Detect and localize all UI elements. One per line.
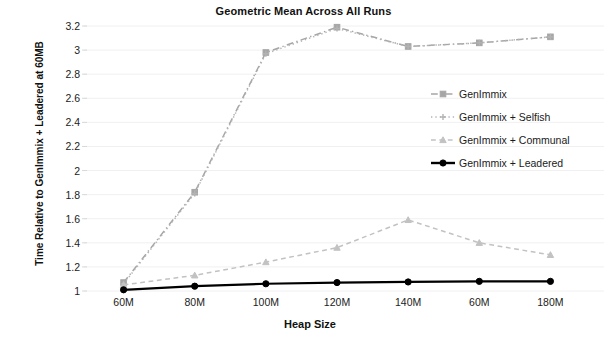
x-tick-label: 100M bbox=[236, 296, 296, 308]
legend-marker-icon bbox=[430, 156, 456, 170]
data-point-marker bbox=[440, 159, 446, 165]
x-tick-label: 180M bbox=[520, 296, 580, 308]
legend-label: GenImmix + Selfish bbox=[459, 111, 550, 123]
legend-item-genimmix-selfish[interactable]: GenImmix + Selfish bbox=[430, 105, 605, 128]
legend-item-genimmix[interactable]: GenImmix bbox=[430, 82, 605, 105]
legend-marker-icon bbox=[430, 110, 456, 124]
legend-item-genimmix-communal[interactable]: GenImmix + Communal bbox=[430, 128, 605, 151]
x-tick-label: 80M bbox=[165, 296, 225, 308]
x-tick-label: 60M bbox=[94, 296, 154, 308]
x-axis-title: Heap Size bbox=[85, 318, 535, 330]
legend-label: GenImmix bbox=[459, 88, 507, 100]
legend-marker-icon bbox=[430, 87, 456, 101]
legend-label: GenImmix + Communal bbox=[459, 134, 570, 146]
data-point-marker bbox=[440, 114, 446, 120]
x-tick-label: 140M bbox=[378, 296, 438, 308]
data-point-marker bbox=[440, 91, 446, 97]
chart-figure: Geometric Mean Across All Runs Time Rela… bbox=[0, 0, 607, 337]
x-tick-label: 60M bbox=[449, 296, 509, 308]
legend-item-genimmix-leadered[interactable]: GenImmix + Leadered bbox=[430, 151, 605, 174]
legend-marker-icon bbox=[430, 133, 456, 147]
legend-label: GenImmix + Leadered bbox=[459, 157, 563, 169]
x-tick-label: 120M bbox=[307, 296, 367, 308]
chart-legend: GenImmixGenImmix + SelfishGenImmix + Com… bbox=[430, 82, 605, 174]
